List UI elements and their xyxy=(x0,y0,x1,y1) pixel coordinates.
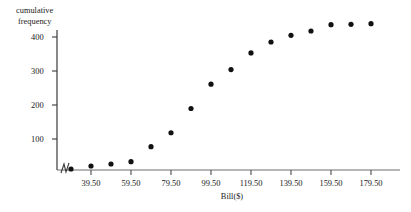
y-tick-label-100: 100 xyxy=(31,135,44,144)
x-tick-label-4: 99.50 xyxy=(202,179,221,188)
x-axis-label: Bill($) xyxy=(221,192,244,201)
data-point xyxy=(228,67,233,72)
data-point xyxy=(268,39,273,44)
data-point xyxy=(368,21,373,26)
x-tick-label-1: 39.50 xyxy=(82,179,101,188)
data-point xyxy=(108,161,113,166)
data-point xyxy=(88,163,93,168)
data-point xyxy=(188,106,193,111)
x-tick-label-2: 59.50 xyxy=(122,179,141,188)
x-tick-label-5: 119.50 xyxy=(240,179,263,188)
data-points-layer xyxy=(68,21,373,171)
data-point xyxy=(148,144,153,149)
x-axis-break-icon xyxy=(61,163,69,173)
data-point xyxy=(328,22,333,27)
data-point xyxy=(348,22,353,27)
data-point xyxy=(308,28,313,33)
x-axis-ticks xyxy=(91,170,371,175)
data-point xyxy=(288,33,293,38)
cumulative-frequency-chart: cumulative frequency 400 300 200 100 xyxy=(0,0,411,212)
y-axis-ticks xyxy=(52,37,57,139)
y-axis-label-line1: cumulative xyxy=(16,6,53,15)
y-tick-label-200: 200 xyxy=(31,101,44,110)
data-point xyxy=(168,130,173,135)
x-tick-label-3: 79.50 xyxy=(162,179,181,188)
y-tick-label-300: 300 xyxy=(31,67,44,76)
data-point xyxy=(68,166,73,171)
data-point xyxy=(128,159,133,164)
x-tick-label-6: 139.50 xyxy=(279,179,302,188)
x-axis-tick-labels: 39.50 59.50 79.50 99.50 119.50 139.50 15… xyxy=(82,179,383,188)
chart-svg: cumulative frequency 400 300 200 100 xyxy=(0,0,411,212)
y-axis-label-line2: frequency xyxy=(18,17,52,26)
y-axis-tick-labels: 400 300 200 100 xyxy=(31,33,44,144)
y-tick-label-400: 400 xyxy=(31,33,44,42)
x-tick-label-7: 159.50 xyxy=(319,179,342,188)
data-point xyxy=(208,82,213,87)
data-point xyxy=(248,50,253,55)
x-tick-label-8: 179.50 xyxy=(359,179,382,188)
